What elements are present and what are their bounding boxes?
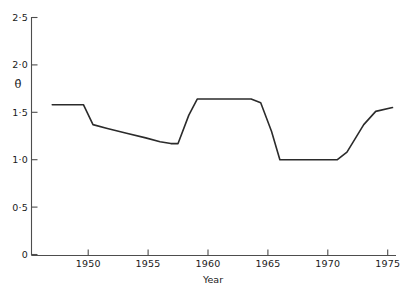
y-tick-label: 1·0	[12, 154, 28, 165]
x-axis-title: Year	[202, 274, 223, 285]
y-tick-label: 2·5	[12, 12, 28, 23]
theta-hat-vs-year-line-chart: 2·5 2·0 1·5 1·0 0·5 0 θ̂ 1950 1955 1960 …	[0, 0, 414, 292]
x-tick-label: 1960	[196, 258, 221, 269]
x-tick-label: 1955	[136, 258, 161, 269]
y-tick-marks	[32, 18, 38, 255]
y-tick-label: 0	[22, 249, 28, 260]
axes-group	[32, 17, 397, 256]
y-axis-label: θ̂	[15, 77, 22, 91]
y-tick-label: 1·5	[12, 107, 28, 118]
x-tick-labels: 1950 1955 1960 1965 1970 1975	[76, 258, 400, 269]
y-tick-label: 2·0	[12, 59, 28, 70]
x-tick-label: 1975	[375, 258, 400, 269]
y-tick-labels: 2·5 2·0 1·5 1·0 0·5 0	[12, 12, 28, 260]
data-series-line	[52, 99, 392, 160]
x-tick-marks	[88, 250, 388, 256]
x-tick-label: 1965	[255, 258, 280, 269]
x-tick-label: 1970	[315, 258, 340, 269]
x-tick-label: 1950	[76, 258, 101, 269]
y-tick-label: 0·5	[12, 202, 28, 213]
